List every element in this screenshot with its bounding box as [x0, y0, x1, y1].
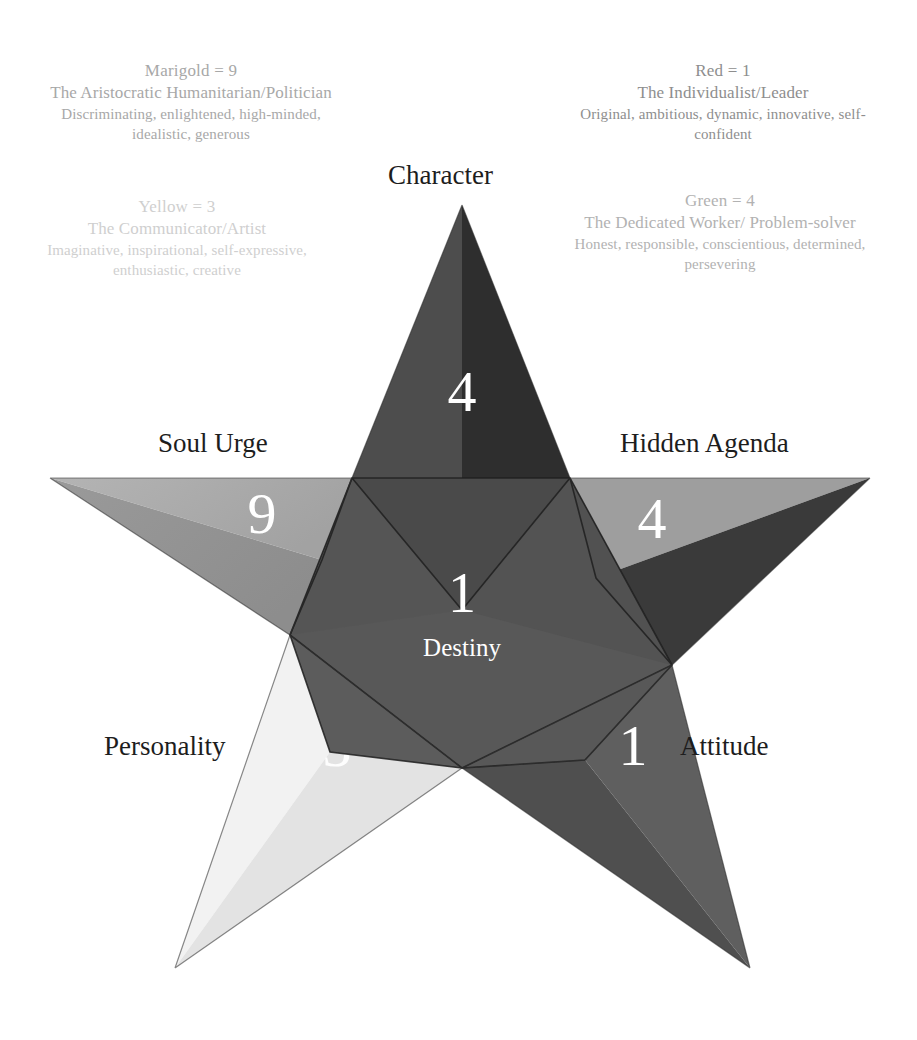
legend-yellow-role: The Communicator/Artist: [24, 218, 330, 240]
numerology-star-graphic: 4 4 1 3 9: [0, 0, 917, 1040]
legend-red-role: The Individualist/Leader: [558, 82, 888, 104]
legend-green-role: The Dedicated Worker/ Problem-solver: [548, 212, 892, 234]
legend-red: Red = 1 The Individualist/Leader Origina…: [558, 60, 888, 144]
star-label-attitude: Attitude: [680, 731, 769, 762]
arm-hidden-value: 4: [638, 486, 667, 551]
arm-attitude-value: 1: [619, 713, 648, 778]
legend-yellow: Yellow = 3 The Communicator/Artist Imagi…: [24, 196, 330, 280]
legend-marigold-traits: Discriminating, enlightened, high-minded…: [38, 105, 344, 144]
legend-marigold: Marigold = 9 The Aristocratic Humanitari…: [38, 60, 344, 144]
legend-red-traits: Original, ambitious, dynamic, innovative…: [558, 105, 888, 144]
star-label-personality: Personality: [104, 731, 226, 762]
legend-green-traits: Honest, responsible, conscientious, dete…: [548, 235, 892, 274]
star-label-hidden-agenda: Hidden Agenda: [620, 428, 789, 459]
arm-character-value: 4: [448, 359, 477, 424]
destiny-label: Destiny: [423, 634, 501, 661]
legend-green-number: Green = 4: [548, 190, 892, 212]
legend-yellow-traits: Imaginative, inspirational, self-express…: [24, 241, 330, 280]
legend-yellow-number: Yellow = 3: [24, 196, 330, 218]
destiny-value: 1: [448, 562, 476, 624]
legend-red-number: Red = 1: [558, 60, 888, 82]
legend-marigold-number: Marigold = 9: [38, 60, 344, 82]
star-label-soul-urge: Soul Urge: [158, 428, 268, 459]
star-chart-canvas: 4 4 1 3 9: [0, 0, 917, 1040]
arm-soul-urge-value: 9: [248, 481, 277, 546]
legend-green: Green = 4 The Dedicated Worker/ Problem-…: [548, 190, 892, 274]
legend-marigold-role: The Aristocratic Humanitarian/Politician: [38, 82, 344, 104]
star-label-character: Character: [388, 160, 493, 191]
